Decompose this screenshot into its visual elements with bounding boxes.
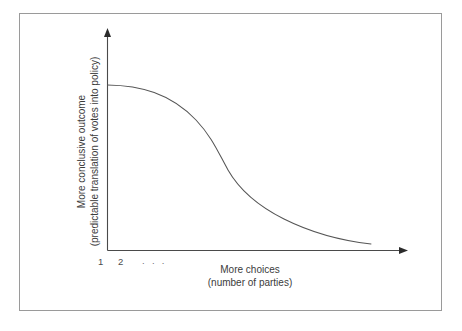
x-axis-label-line2: (number of parties) bbox=[180, 277, 320, 290]
y-axis-label: More conclusive outcome (predictable tra… bbox=[76, 42, 101, 262]
y-axis-arrow-icon bbox=[104, 28, 111, 37]
figure-root: 1 2 . . . More choices (number of partie… bbox=[0, 0, 462, 331]
x-axis-label: More choices (number of parties) bbox=[180, 264, 320, 289]
x-tick-label-2: 2 bbox=[118, 256, 123, 267]
y-axis-label-line1: More conclusive outcome bbox=[76, 42, 89, 262]
x-axis-arrow-icon bbox=[399, 247, 408, 254]
y-axis-label-line2: (predictable translation of votes into p… bbox=[88, 42, 101, 262]
data-curve bbox=[108, 85, 372, 244]
x-tick-label-ellipsis: . . . bbox=[142, 255, 167, 266]
x-axis-label-line1: More choices bbox=[180, 264, 320, 277]
